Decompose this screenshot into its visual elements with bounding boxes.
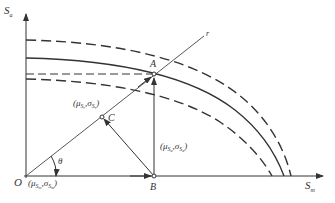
point-B-label: B: [150, 181, 156, 192]
origin-annotation: (μSm,σSm): [28, 178, 57, 190]
point-A: [152, 72, 156, 76]
point-B: [152, 174, 156, 178]
line-BC: [104, 119, 154, 176]
y-axis-label: Sa: [4, 4, 13, 18]
C-annotation: (μSr,σSr): [73, 98, 99, 110]
ray-r: [26, 36, 204, 176]
point-C: [100, 115, 104, 119]
arrow-OA: [138, 77, 151, 87]
lower-limit-curve: [26, 79, 272, 176]
x-axis-label: Sm: [305, 179, 316, 193]
AB-annotation: (μSa,σSa): [160, 141, 187, 153]
angle-label: θ: [58, 156, 63, 166]
ray-label: r: [206, 29, 210, 38]
origin-label: O: [14, 176, 22, 188]
point-A-label: A: [149, 58, 157, 69]
point-C-label: C: [108, 112, 115, 123]
interference-diagram: Sa Sm O (μSm,σSm) r θ A B C (μSr,σSr) (μ…: [0, 0, 335, 203]
theta-arc: [51, 156, 56, 176]
